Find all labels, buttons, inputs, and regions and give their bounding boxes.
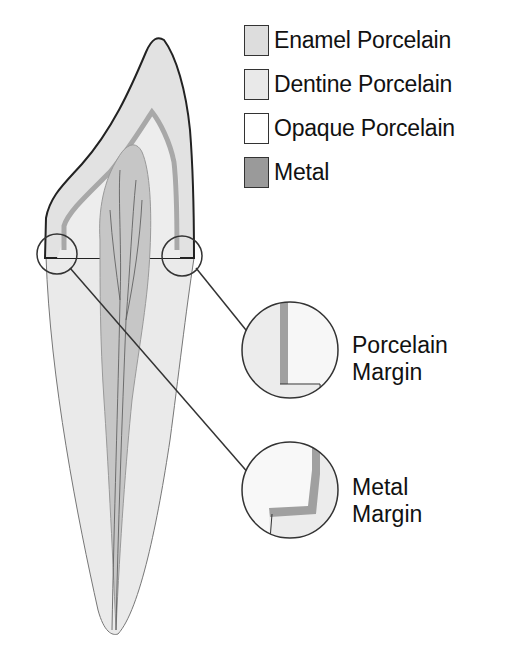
legend-label: Metal <box>274 161 329 184</box>
porcelain-margin-line2: Margin <box>352 359 448 386</box>
dentine-swatch <box>244 69 269 100</box>
porcelain-margin-detail <box>240 300 340 420</box>
porcelain-margin-line1: Porcelain <box>352 332 448 359</box>
legend-item-dentine: Dentine Porcelain <box>244 68 455 101</box>
metal-margin-label: Metal Margin <box>352 474 422 528</box>
porcelain-margin-label: Porcelain Margin <box>352 332 448 386</box>
legend-item-opaque: Opaque Porcelain <box>244 112 455 145</box>
legend-label: Dentine Porcelain <box>274 73 452 96</box>
metal-margin-line2: Margin <box>352 501 422 528</box>
legend-item-enamel: Enamel Porcelain <box>244 24 455 57</box>
legend-item-metal: Metal <box>244 156 455 189</box>
metal-margin-line1: Metal <box>352 474 422 501</box>
legend: Enamel Porcelain Dentine Porcelain Opaqu… <box>244 24 455 200</box>
legend-label: Opaque Porcelain <box>274 117 455 140</box>
metal-margin-detail <box>240 440 340 540</box>
opaque-swatch <box>244 113 269 144</box>
connector-line-porcelain <box>196 268 250 335</box>
legend-label: Enamel Porcelain <box>274 29 451 52</box>
enamel-swatch <box>244 25 269 56</box>
metal-swatch <box>244 157 269 188</box>
